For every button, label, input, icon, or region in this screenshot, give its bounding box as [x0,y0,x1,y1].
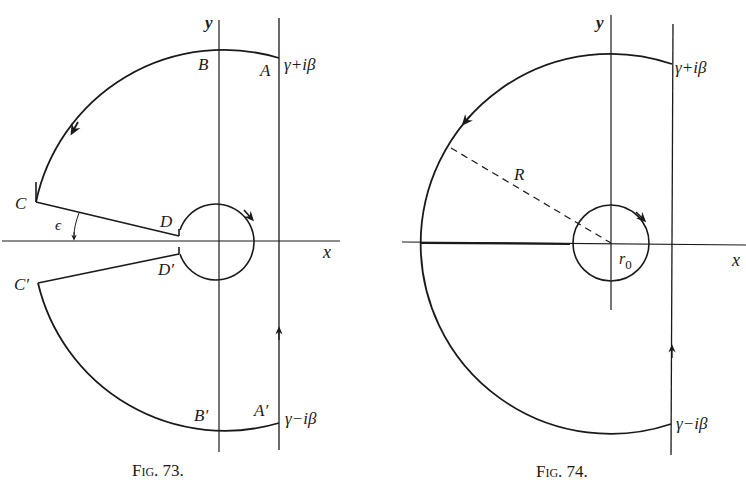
label-C: C [15,194,27,213]
label-C-prime: C′ [14,275,29,294]
fig74-bottom-label: γ−iβ [676,414,708,433]
figure-74 [402,15,746,455]
label-D: D [159,212,173,231]
label-epsilon: ϵ [55,217,62,233]
fig74-caption: Fig. 74. [536,462,588,481]
label-A: A [259,61,271,80]
figure-73 [2,18,340,452]
fig74-y-label: y [594,13,604,32]
label-B: B [198,55,209,74]
r0-subscript: 0 [625,257,632,272]
fig74-x-label: x [731,250,740,270]
small-circle-arc [180,204,254,280]
label-R: R [513,165,525,184]
label-r0: r0 [619,250,632,272]
fig73-x-label: x [322,242,331,262]
gamma-line [671,24,673,455]
contour-arc-upper [36,50,279,202]
x-axis-heavy [421,243,570,244]
contour-arc-lower [38,283,279,431]
fig73-caption: Fig. 73. [132,461,184,480]
fig73-y-label: y [203,13,213,32]
label-A-prime: A′ [253,401,268,420]
radius-R-dashed [451,148,611,243]
epsilon-angle-arc [74,213,79,236]
fig73-bottom-label: γ−iβ [285,409,317,428]
fig73-top-label: γ+iβ [284,55,316,74]
big-arc-arrow [465,116,470,122]
fig74-top-label: γ+iβ [675,58,707,77]
label-B-prime: B′ [194,406,208,425]
label-D-prime: D′ [157,260,174,279]
figures-canvas: y x B A γ+iβ C D ϵ D′ C′ B′ A′ γ−iβ Fig.… [0,0,746,486]
